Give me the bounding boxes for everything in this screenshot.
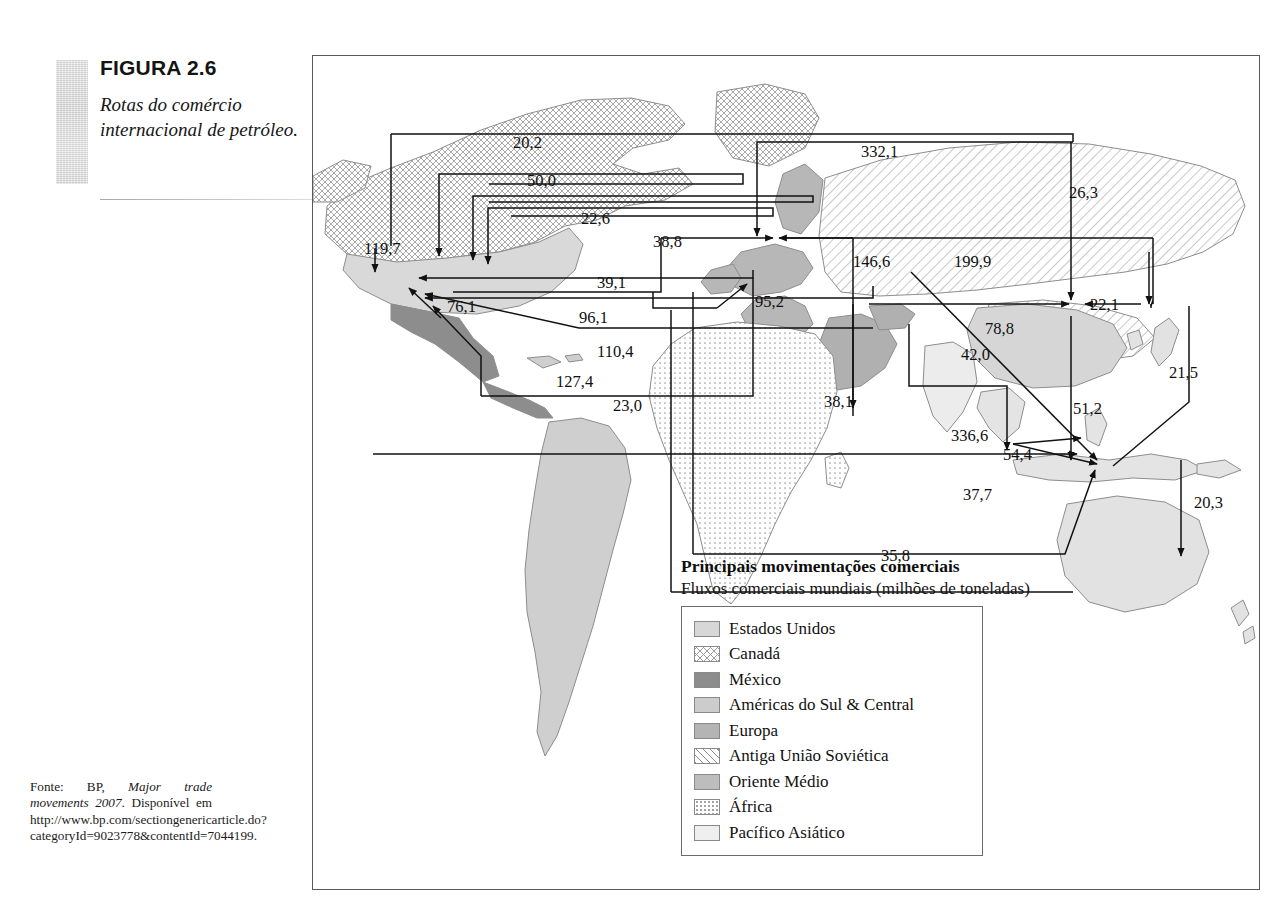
flow-value-label: 146,6: [853, 252, 890, 272]
legend-item-label: Américas do Sul & Central: [729, 695, 914, 715]
flow-value-label: 332,1: [861, 142, 898, 162]
figure-page: FIGURA 2.6 Rotas do comércio internacion…: [0, 0, 1287, 906]
flow-value-label: 23,0: [613, 396, 642, 416]
legend-item: Pacífico Asiático: [694, 820, 972, 846]
flow-value-label: 42,0: [961, 345, 990, 365]
figure-description: Rotas do comércio internacional de petró…: [100, 92, 300, 142]
flow-value-label: 20,2: [513, 133, 542, 153]
flow-value-label: 38,8: [653, 232, 682, 252]
flow-value-label: 119,7: [364, 239, 401, 259]
flow-value-label: 78,8: [985, 319, 1014, 339]
flow-value-label: 54,4: [1003, 445, 1032, 465]
legend-swatch-eu: [694, 723, 720, 739]
flow-value-label: 110,4: [597, 342, 634, 362]
flow-value-label: 37,7: [963, 485, 992, 505]
legend-swatch-su: [694, 748, 720, 764]
legend-swatch-us: [694, 621, 720, 637]
flow-value-label: 38,1: [824, 392, 853, 412]
legend-item-label: Oriente Médio: [729, 772, 829, 792]
flow-value-label: 127,4: [556, 372, 593, 392]
legend-box: Estados UnidosCanadáMéxicoAméricas do Su…: [681, 606, 983, 856]
flow-value-label: 22,1: [1090, 295, 1119, 315]
flow-value-label: 76,1: [447, 297, 476, 317]
flow-value-label: 96,1: [579, 308, 608, 328]
legend-swatch-ca: [694, 646, 720, 662]
legend-item-label: México: [729, 670, 781, 690]
legend-item: Américas do Sul & Central: [694, 693, 972, 719]
legend-swatch-sa: [694, 697, 720, 713]
legend-item-label: Europa: [729, 721, 778, 741]
flow-value-label: 39,1: [597, 273, 626, 293]
legend-item: África: [694, 795, 972, 821]
flow-value-label: 51,2: [1073, 399, 1102, 419]
flow-value-label: 21,5: [1169, 363, 1198, 383]
flow-value-label: 199,9: [954, 252, 991, 272]
legend-swatch-af: [694, 799, 720, 815]
flow-value-label: 95,2: [755, 292, 784, 312]
source-prefix: Fonte: BP,: [30, 779, 128, 794]
flow-value-label: 20,3: [1194, 493, 1223, 513]
legend-item: Europa: [694, 718, 972, 744]
flow-value-label: 22,6: [581, 209, 610, 229]
legend-swatch-mx: [694, 672, 720, 688]
world-map-figure: 20,250,022,6119,738,839,176,196,1110,412…: [312, 55, 1260, 890]
legend-item-label: Estados Unidos: [729, 619, 835, 639]
legend-item: Estados Unidos: [694, 616, 972, 642]
legend-item-label: Canadá: [729, 644, 780, 664]
caption-decorative-swatch: [56, 60, 88, 184]
page-title: FIGURA 2.6: [100, 56, 217, 80]
legend-item: Antiga União Soviética: [694, 744, 972, 770]
legend-title: Principais movimentações comerciais: [681, 556, 1030, 577]
flow-value-label: 50,0: [527, 171, 556, 191]
source-note: Fonte: BP, Major trade movements 2007. D…: [30, 779, 212, 845]
legend-item: Canadá: [694, 642, 972, 668]
legend-subtitle: Fluxos comerciais mundiais (milhões de t…: [681, 579, 1030, 599]
map-legend: Principais movimentações comerciais Flux…: [681, 556, 1030, 856]
legend-item-label: África: [729, 797, 772, 817]
flow-value-label: 26,3: [1069, 183, 1098, 203]
legend-swatch-me: [694, 774, 720, 790]
legend-item-label: Antiga União Soviética: [729, 746, 889, 766]
legend-item: Oriente Médio: [694, 769, 972, 795]
legend-swatch-ap: [694, 825, 720, 841]
legend-item-label: Pacífico Asiático: [729, 823, 845, 843]
legend-item: México: [694, 667, 972, 693]
flow-value-label: 336,6: [951, 426, 988, 446]
